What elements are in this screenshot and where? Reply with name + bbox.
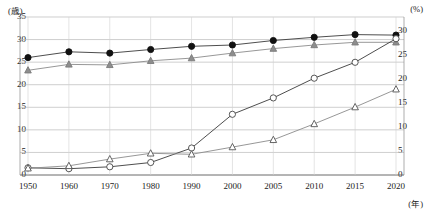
caption-text [0,206,428,214]
data-point-marker [66,61,73,67]
data-point-marker [229,42,235,48]
data-point-marker [311,120,318,126]
data-point-marker [148,159,154,165]
series-line [28,42,396,70]
data-point-marker [311,75,317,81]
data-point-marker [270,136,277,142]
chart-container: (歳) (%) (年) 35302520151050 302520151050 … [0,0,428,214]
data-point-marker [229,111,235,117]
gridlines [20,17,404,175]
series-line [28,39,396,169]
series-layer [25,31,400,171]
data-point-marker [148,46,154,52]
series-line [28,35,396,58]
data-point-marker [107,164,113,170]
data-point-marker [107,50,113,56]
data-point-marker [189,43,195,49]
plot-area [0,0,428,214]
data-point-marker [66,49,72,55]
data-point-marker [352,59,358,65]
data-point-marker [270,37,276,43]
data-point-marker [352,103,359,109]
data-point-marker [393,86,400,92]
data-point-marker [270,95,276,101]
data-point-marker [352,31,358,37]
data-point-marker [147,150,154,156]
data-point-marker [311,34,317,40]
data-point-marker [393,36,399,42]
data-point-marker [25,55,31,61]
series-line [28,89,396,168]
